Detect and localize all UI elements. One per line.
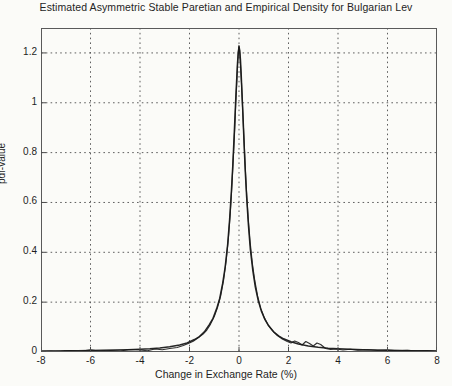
x-axis-label: Change in Exchange Rate (%) <box>0 368 452 380</box>
grid-lines <box>41 28 437 352</box>
y-axis-label: pdf-value <box>0 143 7 184</box>
x-tick-label: -4 <box>125 355 155 366</box>
y-tick-label: 0.4 <box>3 245 37 256</box>
x-tick-label: -6 <box>76 355 106 366</box>
series-line-stable-paretian <box>41 47 437 351</box>
x-tick-label: 6 <box>373 355 403 366</box>
y-tick-label: 0.8 <box>3 146 37 157</box>
plot-area <box>41 28 437 352</box>
y-tick-label: 1.2 <box>3 46 37 57</box>
chart-title: Estimated Asymmetric Stable Paretian and… <box>0 1 452 13</box>
x-tick-label: 2 <box>274 355 304 366</box>
x-tick-label: -8 <box>26 355 56 366</box>
x-tick-label: 4 <box>323 355 353 366</box>
x-tick-label: 0 <box>224 355 254 366</box>
y-tick-label: 0.6 <box>3 195 37 206</box>
x-tick-label: 8 <box>422 355 452 366</box>
y-tick-label: 0.2 <box>3 295 37 306</box>
chart-page: Estimated Asymmetric Stable Paretian and… <box>0 0 452 386</box>
x-tick-label: -2 <box>175 355 205 366</box>
plot-svg <box>41 28 437 352</box>
y-tick-label: 1 <box>3 96 37 107</box>
